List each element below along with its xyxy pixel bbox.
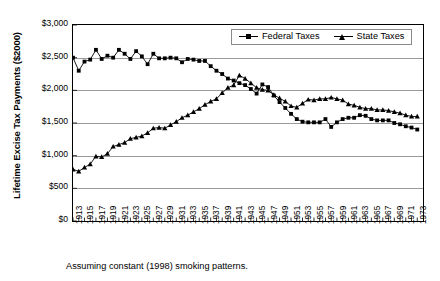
x-axis-tick-label: 1947 xyxy=(271,206,279,224)
x-axis-tick-label: 1963 xyxy=(362,206,370,224)
y-axis-tick-labels: $0$500$1,000$1,500$2,000$2,500$3,000 xyxy=(0,0,68,281)
x-axis-tick-label: 1941 xyxy=(236,206,244,224)
x-axis-tick-label: 1959 xyxy=(340,206,348,224)
legend-item-federal-taxes: Federal Taxes xyxy=(239,32,320,41)
x-axis-tick-label: 1953 xyxy=(305,206,313,224)
x-axis-tick-label: 1957 xyxy=(328,206,336,224)
y-axis-tick-label: $3,000 xyxy=(4,19,68,28)
x-axis-tick-label: 1921 xyxy=(122,206,130,224)
x-axis-tick-label: 1971 xyxy=(408,206,416,224)
legend-label-federal-taxes: Federal Taxes xyxy=(262,32,320,41)
chart-figure: Lifetime Excise Tax Payments ($2000) $0$… xyxy=(0,0,440,281)
y-axis-tick-label: $500 xyxy=(4,182,68,191)
y-axis-tick-label: $1,000 xyxy=(4,150,68,159)
x-axis-tick-label: 1931 xyxy=(179,206,187,224)
x-axis-tick-label: 1915 xyxy=(87,206,95,224)
x-axis-tick-label: 1935 xyxy=(202,206,210,224)
x-axis-tick-label: 1945 xyxy=(259,206,267,224)
x-axis-tick-label: 1965 xyxy=(374,206,382,224)
y-axis-tick-label: $2,000 xyxy=(4,84,68,93)
chart-footnote: Assuming constant (1998) smoking pattern… xyxy=(66,261,248,271)
x-axis-tick-label: 1949 xyxy=(282,206,290,224)
y-axis-tick-label: $0 xyxy=(4,215,68,224)
x-axis-tick-label: 1961 xyxy=(351,206,359,224)
series-federal-taxes xyxy=(73,48,419,132)
x-axis-tick-label: 1943 xyxy=(248,206,256,224)
y-axis-tick-label: $2,500 xyxy=(4,52,68,61)
x-axis-tick-label: 1923 xyxy=(133,206,141,224)
x-axis-tick-label: 1937 xyxy=(213,206,221,224)
x-axis-tick-label: 1927 xyxy=(156,206,164,224)
x-axis-tick-label: 1913 xyxy=(76,206,84,224)
x-axis-tick-label: 1967 xyxy=(385,206,393,224)
square-marker-icon xyxy=(239,33,258,41)
legend-item-state-taxes: State Taxes xyxy=(334,32,405,41)
data-series-layer xyxy=(73,25,423,221)
x-axis-tick-label: 1929 xyxy=(167,206,175,224)
x-axis-tick-label: 1925 xyxy=(144,206,152,224)
x-axis-tick-label: 1969 xyxy=(397,206,405,224)
x-axis-tick-label: 1919 xyxy=(110,206,118,224)
x-axis-tick-label: 1955 xyxy=(317,206,325,224)
legend-label-state-taxes: State Taxes xyxy=(357,32,405,41)
y-axis-tick-label: $1,500 xyxy=(4,117,68,126)
x-axis-tick-label: 1933 xyxy=(190,206,198,224)
triangle-marker-icon xyxy=(334,33,353,41)
series-state-taxes xyxy=(73,73,420,174)
x-axis-tick-label: 1973 xyxy=(420,206,428,224)
x-axis-tick-label: 1951 xyxy=(294,206,302,224)
x-axis-tick-label: 1917 xyxy=(99,206,107,224)
x-axis-tick-label: 1939 xyxy=(225,206,233,224)
chart-legend: Federal Taxes State Taxes xyxy=(231,29,412,45)
plot-area xyxy=(72,24,424,222)
